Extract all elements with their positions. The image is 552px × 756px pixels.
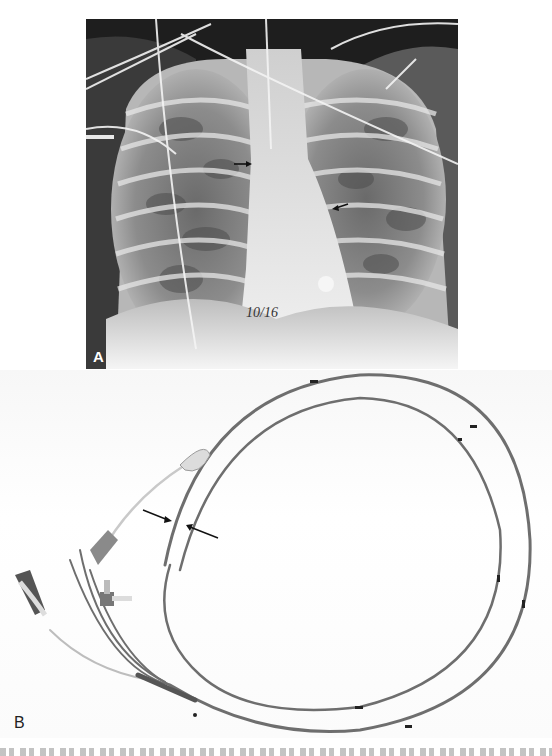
panel-a-chest-xray: 10/16 A — [86, 19, 458, 369]
clip-icon — [86, 135, 114, 139]
panel-label-b: B — [14, 714, 25, 732]
catheter-image — [0, 370, 552, 738]
caption-text-fragment — [0, 748, 552, 756]
figure-caption-clipped — [0, 744, 552, 756]
arrow-icon — [143, 510, 172, 523]
panel-label-a: A — [93, 348, 104, 365]
connector-icon — [15, 570, 45, 615]
ecg-electrode-icon — [318, 276, 334, 292]
connector-icon — [180, 449, 210, 471]
date-annotation: 10/16 — [246, 305, 278, 321]
stopcock-icon — [100, 580, 132, 606]
connector-icon — [90, 530, 118, 565]
panel-b-catheter-photo: B — [0, 370, 552, 738]
